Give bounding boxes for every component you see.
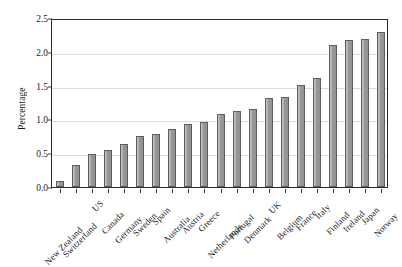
bar [217,114,225,187]
bar [120,144,128,187]
bar [281,97,289,187]
y-axis-tick-labels: 0.00.51.01.52.02.5 [26,0,48,267]
bar [184,124,192,187]
y-tick-label: 2.0 [36,48,48,58]
y-tick-label: 0.5 [36,149,48,159]
x-axis-category-labels: New ZealandSwitzerlandUSCanadaGermanySwe… [51,190,388,267]
bar [233,111,241,187]
bar [200,122,208,187]
bar [136,136,144,187]
bar [72,165,80,187]
y-tick-label: 0.0 [36,183,48,193]
bar [88,154,96,187]
bar [104,150,112,187]
y-tick-label: 1.0 [36,115,48,125]
bar [329,45,337,187]
bar [152,134,160,187]
y-tick-label: 1.5 [36,82,48,92]
bar [361,39,369,187]
bar [297,85,305,187]
bar [377,32,385,187]
bar [265,98,273,187]
bar [313,78,321,188]
bar [168,129,176,187]
y-tick-label: 2.5 [36,14,48,24]
plot-area [51,19,388,188]
bar [345,40,353,187]
bar [249,109,257,187]
bars-group [52,20,387,187]
bar [56,181,64,187]
